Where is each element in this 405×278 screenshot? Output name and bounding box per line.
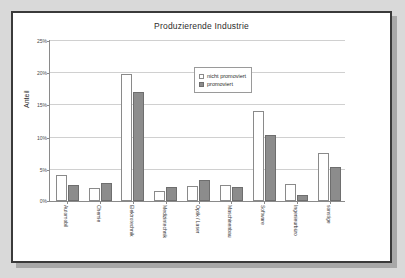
bar: [253, 111, 264, 201]
x-label-cell: sonstige: [312, 203, 345, 258]
chart-legend: nicht promoviert promoviert: [194, 67, 252, 93]
bar: [265, 135, 276, 201]
bar-group: [149, 40, 182, 201]
bar: [68, 185, 79, 201]
legend-item-nicht-promoviert: nicht promoviert: [199, 73, 246, 79]
x-tick-label: sonstige: [326, 205, 332, 224]
x-label-cell: Maschinenbau: [214, 203, 247, 258]
legend-swatch-icon-promoviert: [199, 82, 204, 87]
x-tick-label: Software: [260, 205, 266, 225]
bar-group: [51, 40, 84, 201]
legend-swatch-icon-nicht-promoviert: [199, 74, 204, 79]
bar: [199, 180, 210, 201]
bar: [121, 74, 132, 202]
chart-title: Produzierende Industrie: [13, 21, 390, 31]
y-tick-mark: [47, 201, 50, 202]
chart-canvas: Produzierende Industrie Anteil 0%5%10%15…: [13, 13, 390, 261]
bar-groups: [51, 40, 346, 201]
y-tick-label: 10%: [37, 135, 47, 141]
x-tick-label: Chemie: [96, 205, 102, 222]
x-label-cell: Ingenieurbüro: [279, 203, 312, 258]
bar: [101, 183, 112, 201]
y-tick-mark: [47, 73, 50, 74]
bar-group: [248, 40, 281, 201]
bar: [220, 185, 231, 201]
bar: [154, 191, 165, 201]
y-tick-mark: [47, 41, 50, 42]
x-tick-label: Elektrotechnik: [129, 205, 135, 236]
y-tick-label: 0%: [40, 198, 47, 204]
slide-frame: Produzierende Industrie Anteil 0%5%10%15…: [11, 11, 392, 263]
y-tick-mark: [47, 105, 50, 106]
y-tick-label: 5%: [40, 167, 47, 173]
x-label-cell: Medizintechnik: [148, 203, 181, 258]
bar: [166, 187, 177, 201]
y-tick-mark: [47, 170, 50, 171]
bar-group: [117, 40, 150, 201]
bar: [285, 184, 296, 201]
y-tick-label: 15%: [37, 102, 47, 108]
legend-label-promoviert: promoviert: [207, 81, 233, 87]
bar-group: [313, 40, 346, 201]
y-tick-label: 20%: [37, 70, 47, 76]
bar: [232, 187, 243, 201]
x-tick-label: Medizintechnik: [162, 205, 168, 238]
x-label-cell: Optik / Laser: [181, 203, 214, 258]
x-label-cell: Automobil: [50, 203, 83, 258]
bar-group: [84, 40, 117, 201]
x-tick-label: Automobil: [63, 205, 69, 227]
bar-group: [280, 40, 313, 201]
legend-label-nicht-promoviert: nicht promoviert: [207, 73, 246, 79]
bar: [318, 153, 329, 201]
bar: [330, 167, 341, 201]
bar-group: [182, 40, 215, 201]
bar: [133, 92, 144, 201]
x-label-cell: Chemie: [83, 203, 116, 258]
bar-group: [215, 40, 248, 201]
bar: [56, 175, 67, 201]
x-tick-label: Optik / Laser: [195, 205, 201, 233]
x-label-cell: Software: [247, 203, 280, 258]
y-tick-label: 25%: [37, 38, 47, 44]
x-tick-label: Maschinenbau: [227, 205, 233, 238]
y-tick-mark: [47, 138, 50, 139]
legend-item-promoviert: promoviert: [199, 81, 246, 87]
y-axis-title: Anteil: [23, 90, 30, 108]
x-tick-label: Ingenieurbüro: [293, 205, 299, 236]
bar: [89, 188, 100, 201]
plot-area: 0%5%10%15%20%25%: [49, 40, 345, 202]
x-label-cell: Elektrotechnik: [116, 203, 149, 258]
x-axis-labels: AutomobilChemieElektrotechnikMedizintech…: [50, 203, 345, 258]
bar: [297, 195, 308, 201]
bar: [187, 186, 198, 201]
